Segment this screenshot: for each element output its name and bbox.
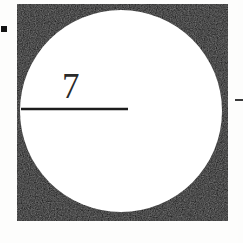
radius-length-label: 7 — [62, 69, 80, 104]
geometry-diagram — [0, 0, 243, 243]
figure-canvas: 7 — [0, 0, 243, 243]
right-edge-scan-mark — [235, 99, 243, 101]
left-edge-scan-mark — [1, 26, 7, 32]
inscribed-circle — [20, 10, 222, 212]
